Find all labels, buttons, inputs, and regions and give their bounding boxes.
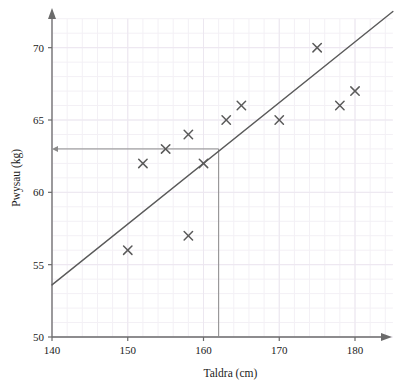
x-axis-tick-label: 140: [44, 344, 61, 356]
best-fit-line: [52, 12, 393, 285]
axes: [48, 8, 392, 341]
y-axis-tick-label: 65: [33, 114, 45, 126]
x-axis-tick-label: 150: [120, 344, 137, 356]
grid-minor: [52, 19, 393, 337]
y-axis-tick-label: 55: [33, 259, 45, 271]
x-axis-tick-label: 180: [347, 344, 364, 356]
y-axis-tick-label: 60: [33, 186, 45, 198]
scatter-chart: 1401501601701805055606570 Taldra (cm)Pwy…: [0, 0, 398, 384]
y-axis-tick-label: 50: [33, 331, 45, 343]
y-axis-title: Pwysau (kg): [10, 149, 23, 207]
line-of-best-fit: [52, 12, 393, 285]
x-axis-arrowhead: [381, 333, 392, 341]
x-axis-tick-label: 160: [195, 344, 212, 356]
x-axis-tick-label: 170: [271, 344, 288, 356]
y-axis-tick-label: 70: [33, 42, 45, 54]
construction-arrowhead: [52, 146, 58, 152]
x-axis-title: Taldra (cm): [204, 367, 258, 380]
y-axis-arrowhead: [48, 8, 56, 19]
chart-canvas: 1401501601701805055606570 Taldra (cm)Pwy…: [0, 0, 398, 384]
